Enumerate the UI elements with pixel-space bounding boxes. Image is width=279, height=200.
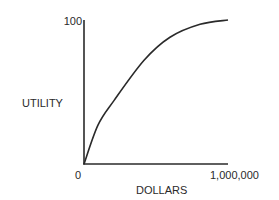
- x-tick-label-0: 0: [75, 169, 81, 181]
- utility-curve: [84, 20, 228, 164]
- x-axis-label: DOLLARS: [136, 184, 187, 196]
- utility-chart: 100 UTILITY 0 1,000,000 DOLLARS: [0, 0, 279, 200]
- y-axis-label: UTILITY: [22, 97, 63, 109]
- x-tick-label-max: 1,000,000: [210, 169, 259, 181]
- y-tick-label-100: 100: [64, 15, 82, 27]
